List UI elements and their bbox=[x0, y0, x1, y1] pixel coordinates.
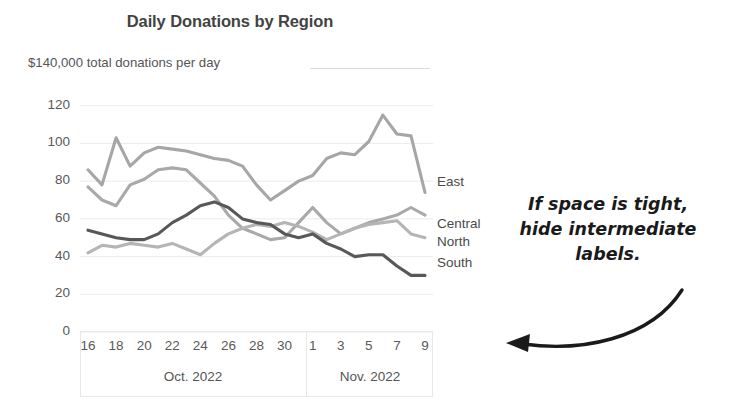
y-tick-label: 80 bbox=[26, 172, 70, 187]
y-tick-label: 0 bbox=[26, 323, 70, 338]
annotation-line: hide intermediate bbox=[497, 217, 719, 242]
series-line-north bbox=[88, 221, 425, 255]
chart-container: Daily Donations by Region $140,000 total… bbox=[0, 0, 733, 407]
x-tick-label: 30 bbox=[272, 338, 298, 353]
x-tick-label: 16 bbox=[75, 338, 101, 353]
y-tick-label: 120 bbox=[26, 97, 70, 112]
series-line-south bbox=[88, 202, 425, 276]
series-label-central: Central bbox=[437, 216, 481, 231]
series-lines bbox=[88, 115, 425, 275]
x-tick-label: 5 bbox=[356, 338, 382, 353]
x-tick-label: 24 bbox=[187, 338, 213, 353]
annotation-line: labels. bbox=[497, 242, 719, 267]
x-tick-label: 7 bbox=[384, 338, 410, 353]
series-line-east bbox=[88, 115, 425, 200]
series-label-north: North bbox=[437, 234, 470, 249]
series-label-south: South bbox=[437, 255, 472, 270]
x-tick-label: 20 bbox=[131, 338, 157, 353]
x-tick-label: 18 bbox=[103, 338, 129, 353]
x-tick-label: 3 bbox=[328, 338, 354, 353]
y-tick-label: 40 bbox=[26, 248, 70, 263]
y-tick-label: 60 bbox=[26, 210, 70, 225]
y-tick-label: 20 bbox=[26, 285, 70, 300]
annotation-text: If space is tight,hide intermediatelabel… bbox=[497, 192, 719, 267]
annotation-arrow-icon bbox=[420, 282, 720, 362]
y-tick-label: 100 bbox=[26, 134, 70, 149]
period-label: Oct. 2022 bbox=[133, 369, 253, 384]
x-tick-label: 1 bbox=[300, 338, 326, 353]
series-label-east: East bbox=[437, 174, 464, 189]
series-line-central bbox=[88, 168, 425, 240]
period-label: Nov. 2022 bbox=[310, 369, 430, 384]
x-tick-label: 26 bbox=[215, 338, 241, 353]
x-tick-label: 28 bbox=[244, 338, 270, 353]
annotation-line: If space is tight, bbox=[497, 192, 719, 217]
x-tick-label: 22 bbox=[159, 338, 185, 353]
